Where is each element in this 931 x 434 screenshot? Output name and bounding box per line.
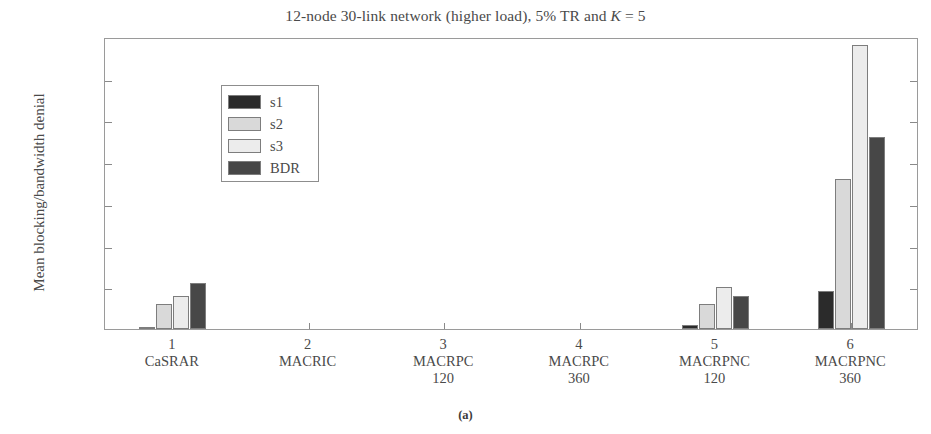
x-axis-group-label-1: 1CaSRAR — [145, 336, 199, 370]
legend-rows: s1s2s3BDR — [228, 91, 312, 178]
plot-area: s1s2s3BDR — [104, 38, 918, 330]
legend-swatch-s3 — [228, 139, 261, 153]
x-group-index: 4 — [549, 336, 609, 353]
y-axis-tick-mark-right — [910, 248, 917, 249]
y-axis-tick-mark — [105, 164, 112, 165]
x-group-index: 3 — [413, 336, 473, 353]
x-group-sublabel: 120 — [679, 370, 750, 387]
legend-label-s1: s1 — [270, 95, 283, 109]
x-axis-tick-mark — [309, 323, 310, 329]
y-axis-tick-mark-right — [910, 122, 917, 123]
bar-s2-group-5 — [699, 304, 715, 329]
legend-swatch-s1 — [228, 95, 261, 109]
bar-s1-group-6 — [818, 291, 834, 329]
y-axis-label: Mean blocking/bandwidth denial — [31, 28, 48, 358]
y-axis-tick-mark — [105, 248, 112, 249]
chart-title-text-after: = 5 — [621, 7, 646, 24]
legend-item-s3: s3 — [228, 135, 312, 156]
bar-s1-group-5 — [682, 325, 698, 329]
x-group-sublabel: 360 — [549, 370, 609, 387]
x-group-sublabel: 120 — [413, 370, 473, 387]
x-group-index: 6 — [815, 336, 886, 353]
x-axis-tick-mark — [580, 323, 581, 329]
x-group-sublabel: 360 — [815, 370, 886, 387]
y-axis-tick-mark-right — [910, 81, 917, 82]
figure-caption: (a) — [0, 408, 931, 423]
x-axis-group-label-3: 3MACRPC120 — [413, 336, 473, 387]
y-axis-tick-mark — [105, 206, 112, 207]
bar-bdr-group-5 — [733, 296, 749, 329]
x-group-index: 2 — [279, 336, 336, 353]
bar-bdr-group-1 — [190, 283, 206, 329]
x-group-name: MACRIC — [279, 353, 336, 370]
x-group-index: 5 — [679, 336, 750, 353]
legend-swatch-s2 — [228, 117, 261, 131]
x-group-index: 1 — [145, 336, 199, 353]
y-axis-tick-mark-right — [910, 289, 917, 290]
legend-label-s2: s2 — [270, 117, 283, 131]
x-axis-tick-mark — [444, 323, 445, 329]
chart-title: 12-node 30-link network (higher load), 5… — [0, 7, 931, 25]
x-group-name: MACRPNC — [679, 353, 750, 370]
bar-s3-group-5 — [716, 287, 732, 329]
legend-label-bdr: BDR — [270, 161, 300, 175]
x-axis-group-label-5: 5MACRPNC120 — [679, 336, 750, 387]
bar-s2-group-1 — [156, 304, 172, 329]
y-axis-tick-mark — [105, 289, 112, 290]
x-axis-group-label-4: 4MACRPC360 — [549, 336, 609, 387]
chart-legend: s1s2s3BDR — [221, 85, 319, 182]
figure-container: 12-node 30-link network (higher load), 5… — [0, 0, 931, 434]
legend-label-s3: s3 — [270, 139, 283, 153]
x-group-name: MACRPC — [549, 353, 609, 370]
chart-title-italic-k: K — [611, 7, 621, 24]
legend-item-bdr: BDR — [228, 157, 312, 178]
legend-swatch-bdr — [228, 161, 261, 175]
legend-item-s1: s1 — [228, 91, 312, 112]
bar-bdr-group-6 — [869, 137, 885, 329]
x-group-name: MACRPC — [413, 353, 473, 370]
x-group-name: MACRPNC — [815, 353, 886, 370]
legend-item-s2: s2 — [228, 113, 312, 134]
bar-s3-group-6 — [852, 45, 868, 329]
x-group-name: CaSRAR — [145, 353, 199, 370]
bar-s1-group-1 — [139, 327, 155, 329]
bar-s3-group-1 — [173, 296, 189, 329]
x-axis-group-label-6: 6MACRPNC360 — [815, 336, 886, 387]
bar-s2-group-6 — [835, 179, 851, 329]
y-axis-tick-mark — [105, 122, 112, 123]
y-axis-tick-mark — [105, 81, 112, 82]
x-axis-group-label-2: 2MACRIC — [279, 336, 336, 370]
y-axis-tick-mark-right — [910, 164, 917, 165]
chart-title-text-before: 12-node 30-link network (higher load), 5… — [285, 7, 610, 24]
y-axis-tick-mark-right — [910, 206, 917, 207]
